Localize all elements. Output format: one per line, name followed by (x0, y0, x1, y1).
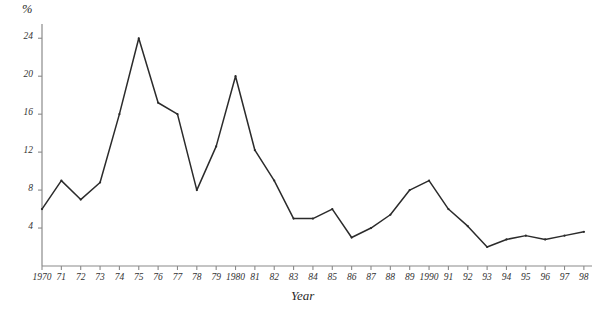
data-point (176, 113, 178, 115)
data-point (351, 236, 353, 238)
data-point (312, 217, 314, 219)
data-point (525, 235, 527, 237)
y-tick-label: 4 (9, 221, 33, 231)
x-tick-label: 98 (571, 272, 597, 282)
data-point (563, 235, 565, 237)
data-point (138, 37, 140, 39)
data-point (254, 149, 256, 151)
data-point (99, 181, 101, 183)
data-point (389, 214, 391, 216)
y-tick-label: 8 (9, 183, 33, 193)
data-point (486, 246, 488, 248)
data-series-line (42, 38, 584, 247)
data-point (583, 231, 585, 233)
line-chart: % Year 4812162024 1970717273747576777879… (0, 0, 597, 312)
data-point (428, 179, 430, 181)
data-point (505, 238, 507, 240)
data-point (467, 225, 469, 227)
data-point (292, 217, 294, 219)
data-point (196, 189, 198, 191)
data-point (41, 208, 43, 210)
data-point (331, 208, 333, 210)
y-tick-label: 20 (9, 69, 33, 79)
y-tick-label: 24 (9, 31, 33, 41)
data-point (118, 113, 120, 115)
data-point (60, 179, 62, 181)
data-point (544, 238, 546, 240)
y-tick-label: 16 (9, 107, 33, 117)
data-point-markers (41, 37, 585, 248)
data-point (234, 75, 236, 77)
data-point (447, 208, 449, 210)
data-point (409, 189, 411, 191)
data-point (80, 198, 82, 200)
plot-area (0, 0, 597, 312)
data-point (370, 227, 372, 229)
data-point (215, 145, 217, 147)
axis-lines (42, 24, 592, 266)
y-tick-label: 12 (9, 145, 33, 155)
data-point (157, 102, 159, 104)
data-point (273, 179, 275, 181)
